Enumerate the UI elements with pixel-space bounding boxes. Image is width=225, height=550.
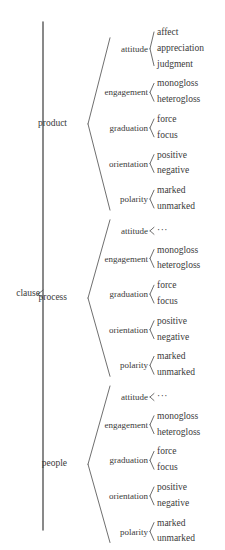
system-label-orientation: orientation xyxy=(109,491,148,500)
leaf-label: affect xyxy=(157,28,178,38)
leaf-label: focus xyxy=(157,131,178,141)
system-label-attitude: attitude xyxy=(121,44,148,53)
leaf-ellipsis: ··· xyxy=(157,392,168,402)
branch-label-product: product xyxy=(38,119,67,129)
leaf-label: unmarked xyxy=(157,535,195,545)
leaf-label: marked xyxy=(157,186,186,196)
system-label-attitude: attitude xyxy=(121,226,148,235)
leaf-label: positive xyxy=(157,483,187,493)
leaf-label: heterogloss xyxy=(157,262,200,272)
leaf-label: monogloss xyxy=(157,80,198,90)
leaf-label: negative xyxy=(157,333,189,343)
leaf-label: force xyxy=(157,448,177,458)
leaf-label: unmarked xyxy=(157,368,195,378)
leaf-label: monogloss xyxy=(157,412,198,422)
leaf-label: negative xyxy=(157,499,189,509)
system-label-attitude: attitude xyxy=(121,393,148,402)
system-label-graduation: graduation xyxy=(110,123,149,132)
system-label-engagement: engagement xyxy=(105,254,148,263)
system-label-graduation: graduation xyxy=(110,290,149,299)
system-label-orientation: orientation xyxy=(109,159,148,168)
leaf-label: focus xyxy=(157,297,178,307)
leaf-ellipsis: ··· xyxy=(157,226,168,236)
system-label-graduation: graduation xyxy=(110,456,149,465)
leaf-label: focus xyxy=(157,463,178,473)
system-label-polarity: polarity xyxy=(120,361,148,370)
leaf-label: monogloss xyxy=(157,246,198,256)
leaf-label: marked xyxy=(157,519,186,529)
leaf-label: positive xyxy=(157,317,187,327)
leaf-label: heterogloss xyxy=(157,95,200,105)
leaf-label: heterogloss xyxy=(157,428,200,438)
root-label-clause: clause xyxy=(16,289,40,299)
leaf-label: force xyxy=(157,281,177,291)
leaf-label: appreciation xyxy=(157,44,204,54)
leaf-label: force xyxy=(157,115,177,125)
system-label-engagement: engagement xyxy=(105,88,148,97)
leaf-label: negative xyxy=(157,167,189,177)
system-label-polarity: polarity xyxy=(120,195,148,204)
leaf-label: positive xyxy=(157,151,187,161)
branch-label-people: people xyxy=(42,460,67,470)
leaf-label: marked xyxy=(157,353,186,363)
leaf-label: judgment xyxy=(157,60,193,70)
system-label-engagement: engagement xyxy=(105,420,148,429)
system-network-diagram: affectappreciationjudgmentattitudemonogl… xyxy=(0,0,225,550)
system-label-orientation: orientation xyxy=(109,325,148,334)
system-label-polarity: polarity xyxy=(120,527,148,536)
leaf-label: unmarked xyxy=(157,202,195,212)
branch-label-process: process xyxy=(39,293,68,303)
